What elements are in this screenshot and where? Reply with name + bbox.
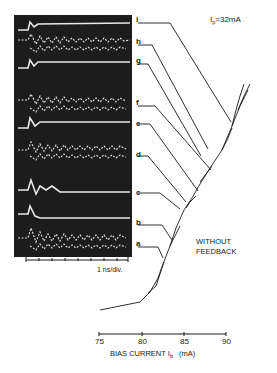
x-axis-label: BIAS CURRENT Ib(mA) — [110, 349, 196, 359]
oscilloscope-photo — [14, 15, 132, 257]
curve-label-line1: WITHOUT — [196, 237, 231, 246]
x-tick-75: 75 — [95, 337, 104, 346]
x-tick-85: 85 — [180, 337, 189, 346]
timebase-scale: 1 ns/div. — [26, 257, 128, 273]
x-tick-90: 90 — [222, 337, 231, 346]
x-tick-80: 80 — [138, 337, 147, 346]
x-axis: 75 80 85 90 BIAS CURRENT Ib(mA) — [95, 332, 231, 359]
leader-lines — [138, 23, 231, 258]
trace-label-b: b — [136, 218, 141, 227]
figure: 1 ns/div. i h g f e d c b a Ip=32mA — [0, 0, 277, 373]
trace-label-e: e — [136, 119, 141, 128]
trace-labels: i h g f e d c b a — [136, 15, 141, 248]
timebase-label: 1 ns/div. — [97, 266, 123, 273]
trace-label-i: i — [136, 15, 138, 24]
trace-label-c: c — [136, 188, 141, 197]
bias-annotation: Ip=32mA — [210, 15, 242, 25]
trace-label-d: d — [136, 150, 141, 159]
curve-label-line2: FEEDBACK — [196, 247, 236, 256]
